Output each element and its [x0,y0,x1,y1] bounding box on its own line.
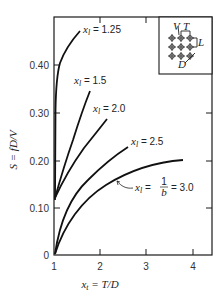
inset-label-d: D [177,58,186,70]
inset-tube-bank: V T L D [159,17,212,74]
x-tick-label: 1 [51,261,57,272]
x-axis-title: xt = T/D [80,278,118,292]
label-xl-2.5: xl = 2.5 [130,135,164,149]
y-tick-label: 0.10 [30,203,50,214]
y-axis-title: S = fD/V [7,129,19,169]
curve-xl-3.0 [55,160,183,254]
chart: 1 2 3 4 0 0.10 0.20 0.30 0.40 xt = T/D S… [0,0,220,299]
x-tick-label: 4 [190,261,196,272]
x-tick-label: 3 [143,261,149,272]
label-xl-3.0: xl = 1 b = 3.0 [117,176,194,198]
x-tick-label: 2 [97,261,103,272]
inset-label-l: L [197,36,204,48]
y-tick-label: 0.20 [30,156,50,167]
label-xl-1.5: xl = 1.5 [73,74,107,88]
inset-label-t: T [183,20,190,32]
label-xl-2.0: xl = 2.0 [92,102,126,116]
y-tick-label: 0.30 [30,108,50,119]
label-xl-1.25: xl = 1.25 [82,23,121,37]
svg-text:b: b [161,186,167,198]
svg-text:xl =: xl = [134,181,151,195]
y-tick-label: 0.40 [30,60,50,71]
svg-text:= 3.0: = 3.0 [171,182,194,193]
y-tick-label: 0 [43,250,49,261]
